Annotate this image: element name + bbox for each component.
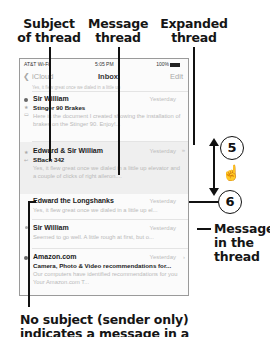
chevron-right-icon: › — [183, 254, 185, 260]
status-time: 5:05 PM — [95, 61, 114, 67]
sender-name: Amazon.com — [33, 253, 77, 260]
message-date: Yesterday — [150, 96, 176, 102]
unread-dot-icon — [24, 98, 28, 102]
callout-message-in-thread: Message in the thread — [214, 222, 270, 264]
message-date: Yesterday — [150, 225, 176, 231]
message-subject: Stinger 90 Brakes — [33, 104, 85, 111]
page-title: Inbox — [98, 72, 118, 81]
reply-icon: ↩ — [24, 157, 28, 163]
sender-name: Edward & Sir William — [33, 147, 103, 154]
leader-line-subject — [49, 47, 51, 161]
battery-indicator: 100% — [156, 61, 180, 67]
callout-message-thread: Message thread — [88, 17, 148, 45]
step-6-marker: 6 — [218, 190, 242, 214]
attachment-icon: ▭ — [24, 111, 29, 117]
callout-subject-of-thread: Subject of thread — [14, 17, 84, 45]
thread-message-row[interactable]: Sir William Yesterday Seemed to go well.… — [20, 220, 189, 246]
divider — [32, 91, 188, 92]
sender-name: Edward the Longshanks — [33, 197, 114, 204]
collapse-thread-icon[interactable]: » — [182, 147, 185, 153]
callout-no-subject-line2: indicates a message in a — [20, 327, 220, 337]
edit-button[interactable]: Edit — [170, 72, 183, 81]
thread-row-expanded[interactable]: ★ ↩ Edward & Sir William Yesterday » SBa… — [20, 142, 189, 194]
partial-row-preview: Yes, it flew great once we dialed in a l… — [32, 85, 182, 90]
leader-line-no-subject-tick — [28, 201, 36, 203]
nav-bar: ❮ iCloud Inbox Edit — [20, 69, 188, 85]
leader-line-message-thread — [118, 47, 120, 175]
callout-subject-line2: of thread — [14, 31, 84, 45]
mail-inbox-screen: AT&T Wi-Fi 5:05 PM 100% ❮ iCloud Inbox E… — [19, 58, 189, 296]
callout-message-thread-line1: Message — [88, 17, 148, 31]
message-subject: Camera, Photo & Video recommendations fo… — [33, 262, 171, 269]
battery-percent: 100% — [156, 61, 169, 67]
sender-name: Sir William — [33, 224, 69, 231]
swipe-arrow — [213, 141, 215, 193]
message-preview: Yes, it flew great once we dialed in a l… — [33, 206, 183, 214]
battery-icon — [170, 63, 180, 67]
message-preview: Seemed to go well. A little rough at fir… — [33, 233, 183, 241]
star-icon: ★ — [24, 149, 28, 155]
leader-line-step6 — [189, 201, 219, 203]
step-5-marker: 5 — [220, 136, 244, 160]
leader-line-expanded — [193, 47, 195, 145]
hand-pointer-icon: ☝ — [222, 164, 241, 182]
message-row[interactable]: Amazon.com Yesterday › Camera, Photo & V… — [20, 249, 189, 296]
callout-expanded-thread: Expanded thread — [160, 17, 228, 45]
thread-message-row[interactable]: Edward the Longshanks Yesterday Yes, it … — [20, 195, 189, 219]
callout-no-subject: No subject (sender only) indicates a mes… — [20, 313, 220, 337]
message-preview: Yes, it flew great once we dialed in a l… — [33, 164, 183, 180]
status-bar: AT&T Wi-Fi 5:05 PM 100% — [20, 59, 188, 69]
carrier-label: AT&T Wi-Fi — [24, 61, 49, 67]
leader-line-no-subject — [28, 201, 30, 307]
callout-expanded-line1: Expanded — [160, 17, 228, 31]
callout-mit-line1: Message — [214, 222, 270, 236]
chevron-left-icon: ❮ — [23, 72, 32, 81]
arrow-down-icon — [209, 188, 219, 196]
callout-expanded-line2: thread — [160, 31, 228, 45]
callout-mit-line2: in the — [214, 236, 270, 250]
message-date: Yesterday — [150, 148, 176, 154]
message-row[interactable]: ★ ▭ Sir William Yesterday Stinger 90 Bra… — [20, 93, 189, 139]
callout-subject-line1: Subject — [14, 17, 84, 31]
message-date: Yesterday — [150, 198, 176, 204]
leader-line-message-in-thread — [197, 228, 211, 230]
star-icon: ★ — [24, 104, 28, 110]
message-preview: Our computers have identified recommenda… — [33, 270, 183, 286]
callout-mit-line3: thread — [214, 250, 270, 264]
callout-message-thread-line2: thread — [88, 31, 148, 45]
message-preview: Here is the document I created showing t… — [33, 112, 183, 128]
callout-no-subject-line1: No subject (sender only) — [20, 313, 220, 327]
message-date: Yesterday — [150, 254, 176, 260]
